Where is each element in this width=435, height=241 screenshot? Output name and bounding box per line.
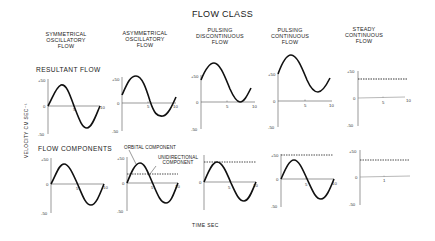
svg-text:-50: -50: [349, 202, 356, 207]
svg-text:5: 5: [304, 103, 307, 108]
svg-text:5: 5: [382, 100, 385, 105]
svg-text:-50: -50: [112, 129, 119, 134]
panel-components-symmetrical: +50 0 -50 5 10: [41, 157, 108, 216]
svg-text:1: 1: [383, 178, 386, 183]
svg-text:+50: +50: [41, 157, 49, 162]
svg-text:10: 10: [329, 103, 334, 108]
svg-text:0: 0: [355, 175, 358, 180]
svg-text:+50: +50: [271, 153, 279, 158]
svg-text:10: 10: [406, 98, 411, 103]
svg-text:5: 5: [228, 185, 231, 190]
svg-text:5: 5: [226, 104, 229, 109]
panel-components-pulsing-continuous: +50 0 -50 5 10: [271, 153, 337, 209]
svg-text:-50: -50: [268, 125, 275, 130]
panel-resultant-steady: +50 0 -50 5 10: [347, 69, 411, 128]
panel-components-asymmetrical: +50 0 -50 5 10: [117, 150, 180, 214]
svg-text:+50: +50: [349, 149, 357, 154]
svg-text:10: 10: [252, 104, 257, 109]
svg-text:+50: +50: [112, 77, 120, 82]
flow-class-plots: +50 0 -50 5 10 +50 0 -50 5 10 +50 0 -50 …: [0, 0, 435, 241]
panel-resultant-pulsing-discontinuous: +50 0 -50 5 10: [191, 63, 257, 132]
svg-text:0: 0: [196, 100, 199, 105]
svg-text:+50: +50: [347, 69, 355, 74]
svg-text:0: 0: [117, 101, 120, 106]
svg-text:-50: -50: [41, 211, 48, 216]
svg-text:+50: +50: [38, 78, 46, 83]
svg-text:0: 0: [199, 180, 202, 185]
svg-text:0: 0: [43, 104, 46, 109]
svg-text:0: 0: [46, 182, 49, 187]
svg-text:+50: +50: [117, 156, 125, 161]
svg-text:+50: +50: [268, 72, 276, 77]
svg-text:-50: -50: [117, 209, 124, 214]
svg-text:0: 0: [276, 177, 279, 182]
svg-text:-50: -50: [271, 204, 278, 209]
svg-text:10: 10: [100, 105, 105, 110]
panel-resultant-symmetrical: +50 0 -50 5 10: [38, 78, 105, 137]
svg-text:5: 5: [147, 104, 150, 109]
panel-resultant-pulsing-continuous: +50 0 -50 5 10: [268, 55, 334, 130]
svg-text:0: 0: [122, 181, 125, 186]
svg-text:-50: -50: [191, 127, 198, 132]
svg-text:-50: -50: [347, 123, 354, 128]
svg-text:5: 5: [305, 182, 308, 187]
panel-resultant-asymmetrical: +50 0 -50 5 10: [112, 76, 178, 134]
svg-text:-50: -50: [38, 132, 45, 137]
svg-text:10: 10: [173, 104, 178, 109]
svg-text:0: 0: [353, 96, 356, 101]
svg-text:0: 0: [273, 99, 276, 104]
svg-text:+50: +50: [191, 74, 199, 79]
panel-components-pulsing-discontinuous: 0 5 10: [199, 155, 258, 210]
panel-components-steady: +50 0 -50 1: [349, 149, 410, 207]
